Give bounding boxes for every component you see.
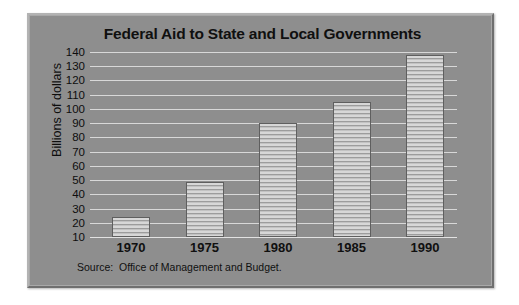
y-axis-title: Billions of dollars bbox=[50, 40, 64, 180]
y-axis-tick-label: 30 bbox=[72, 203, 85, 215]
chart-plate: Federal Aid to State and Local Governmen… bbox=[27, 13, 494, 288]
y-axis-tick-label: 110 bbox=[67, 89, 85, 101]
x-axis-tick-label-1970: 1970 bbox=[91, 240, 171, 255]
chart-title: Federal Aid to State and Local Governmen… bbox=[29, 25, 496, 43]
bar-1990 bbox=[406, 55, 444, 237]
gridline bbox=[90, 66, 457, 67]
y-axis-tick-label: 120 bbox=[66, 74, 85, 86]
y-axis-tick-label: 70 bbox=[72, 146, 85, 158]
y-axis-tick-label: 80 bbox=[72, 131, 85, 143]
y-axis-tick-label: 40 bbox=[72, 188, 85, 200]
y-axis-tick-label: 10 bbox=[72, 231, 85, 243]
gridline bbox=[90, 237, 457, 238]
x-axis-tick-label-1990: 1990 bbox=[385, 240, 465, 255]
gridline bbox=[90, 80, 457, 81]
plot-area: 140130120110100908070605040302010 197019… bbox=[90, 52, 457, 237]
gridline bbox=[90, 95, 457, 96]
y-axis-tick-label: 90 bbox=[72, 117, 85, 129]
bar-1980 bbox=[259, 123, 297, 237]
bar-1985 bbox=[333, 102, 371, 237]
chart-figure: Federal Aid to State and Local Governmen… bbox=[0, 0, 519, 305]
x-axis-tick-label-1985: 1985 bbox=[312, 240, 392, 255]
y-axis-tick-label: 50 bbox=[72, 174, 85, 186]
bar-1975 bbox=[186, 182, 224, 238]
y-axis-tick-label: 60 bbox=[72, 160, 85, 172]
y-axis-tick-label: 100 bbox=[66, 103, 85, 115]
x-axis-tick-label-1975: 1975 bbox=[165, 240, 245, 255]
y-axis-tick-label: 20 bbox=[72, 217, 85, 229]
gridline bbox=[90, 52, 457, 53]
bar-1970 bbox=[112, 217, 150, 237]
y-axis-tick-label: 140 bbox=[66, 46, 85, 58]
x-axis-tick-label-1980: 1980 bbox=[238, 240, 318, 255]
y-axis-tick-label: 130 bbox=[66, 60, 85, 72]
gridline bbox=[90, 109, 457, 110]
source-note: Source: Office of Management and Budget. bbox=[77, 261, 282, 273]
